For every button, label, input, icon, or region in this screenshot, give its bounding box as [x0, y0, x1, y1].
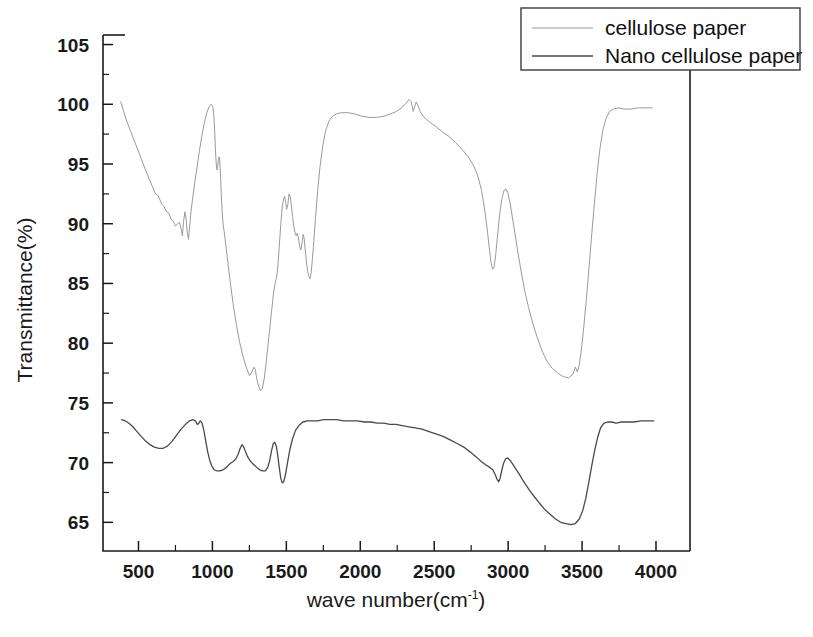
series-curve-1	[121, 420, 653, 525]
y-axis-title: Transmittance(%)	[13, 218, 36, 383]
x-tick-label: 3500	[561, 561, 603, 582]
chart-legend[interactable]: cellulose paperNano cellulose paper	[521, 8, 802, 70]
x-tick-label: 4000	[635, 561, 677, 582]
x-tick-label: 1000	[191, 561, 233, 582]
x-tick-label: 1500	[265, 561, 307, 582]
x-tick-label: 3000	[487, 561, 529, 582]
x-axis-ticks	[138, 541, 656, 551]
axis-frame	[103, 35, 690, 551]
x-tick-label: 2000	[339, 561, 381, 582]
series-group	[121, 100, 654, 525]
series-curve-0	[121, 100, 653, 391]
y-tick-label: 85	[68, 273, 90, 294]
y-tick-label: 70	[68, 453, 89, 474]
y-axis-tick-labels: 65707580859095100105	[57, 35, 89, 534]
x-tick-label: 2500	[413, 561, 455, 582]
chart-canvas: 5001000150020002500300035004000 65707580…	[0, 0, 813, 637]
y-tick-label: 80	[68, 333, 89, 354]
y-tick-label: 100	[57, 94, 89, 115]
y-tick-label: 75	[68, 393, 90, 414]
x-tick-label: 500	[123, 561, 155, 582]
y-axis-ticks	[103, 45, 113, 523]
x-axis-title: wave number(cm-1)	[306, 588, 486, 611]
y-tick-label: 105	[57, 35, 89, 56]
legend-label-1: Nano cellulose paper	[605, 44, 802, 67]
right-frame-stub	[652, 38, 690, 551]
y-tick-label: 90	[68, 214, 89, 235]
ftir-chart: 5001000150020002500300035004000 65707580…	[0, 0, 813, 637]
y-tick-label: 95	[68, 154, 90, 175]
axis-spines	[103, 35, 690, 551]
x-axis-tick-labels: 5001000150020002500300035004000	[123, 561, 677, 582]
y-tick-label: 65	[68, 512, 90, 533]
legend-label-0: cellulose paper	[605, 16, 746, 39]
